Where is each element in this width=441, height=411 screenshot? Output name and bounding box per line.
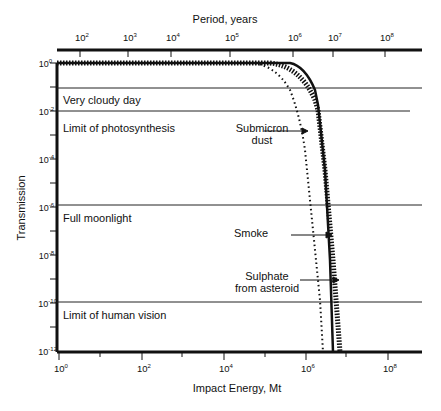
x-tick-label: 102 — [137, 363, 152, 374]
ann-dust-line2: dust — [252, 134, 273, 146]
y-tick-label: 10-4 — [39, 154, 55, 165]
x-tick-label: 106 — [301, 363, 316, 374]
label-vision: Limit of human vision — [63, 309, 166, 321]
label-very-cloudy: Very cloudy day — [63, 94, 141, 106]
x-tick-label: 104 — [219, 363, 234, 374]
top-tick-label: 105 — [225, 32, 240, 43]
ann-smoke: Smoke — [234, 227, 268, 239]
top-tick-label: 103 — [123, 32, 138, 43]
ann-dust-line1: Submicron — [236, 122, 289, 134]
bottom-axis-tick-labels: 100 102 104 106 108 — [54, 363, 398, 374]
arrow-head-icon — [302, 128, 308, 134]
top-tick-label: 102 — [75, 32, 90, 43]
label-moonlight: Full moonlight — [63, 212, 131, 224]
y-tick-label: 10-10 — [38, 298, 57, 309]
x-axis-title: Impact Energy, Mt — [193, 382, 281, 394]
transmission-chart: Period, years 102 103 104 105 106 107 10… — [0, 0, 441, 411]
top-axis-tick-labels: 102 103 104 105 106 107 108 — [75, 32, 395, 43]
y-tick-label: 100 — [39, 58, 53, 69]
reference-lines — [57, 88, 422, 302]
reference-labels: Very cloudy day Limit of photosynthesis … — [63, 94, 175, 321]
y-tick-label: 10-2 — [39, 106, 55, 117]
top-tick-label: 104 — [166, 32, 181, 43]
top-tick-label: 108 — [380, 32, 395, 43]
top-tick-label: 106 — [288, 32, 303, 43]
x-tick-label: 108 — [383, 363, 398, 374]
top-axis-title: Period, years — [193, 13, 258, 25]
y-tick-label: 10-12 — [38, 346, 57, 357]
top-tick-label: 107 — [328, 32, 343, 43]
y-axis-title: Transmission — [15, 176, 27, 241]
y-tick-label: 10-6 — [39, 202, 55, 213]
y-tick-label: 10-8 — [39, 250, 55, 261]
ann-sulphate-line1: Sulphate — [245, 270, 288, 282]
annotations: Submicron dust Smoke Sulphate from aster… — [234, 122, 299, 294]
label-photosynthesis: Limit of photosynthesis — [63, 122, 175, 134]
ann-sulphate-line2: from asteroid — [235, 282, 299, 294]
x-tick-label: 100 — [54, 363, 69, 374]
